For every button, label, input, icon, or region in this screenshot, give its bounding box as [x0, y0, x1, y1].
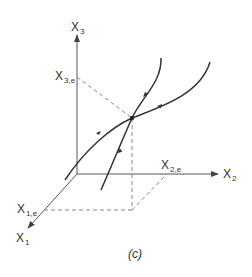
x3e-label: X3,e — [55, 70, 75, 82]
direction-arrow-icon — [96, 92, 162, 153]
x2e-label: X2,e — [161, 159, 181, 171]
shallow-trajectory — [65, 62, 210, 180]
diagram-canvas — [0, 0, 252, 277]
x1-axis-label: X1 — [16, 232, 29, 244]
x2-axis-label: X2 — [223, 168, 236, 180]
steep-trajectory — [101, 58, 161, 190]
x3-axis-label: X3 — [71, 21, 84, 33]
x1e-label: X1,e — [17, 203, 37, 215]
figure-caption: (c) — [128, 247, 142, 261]
equilibrium-point — [130, 116, 134, 120]
x1-axis — [28, 174, 77, 228]
